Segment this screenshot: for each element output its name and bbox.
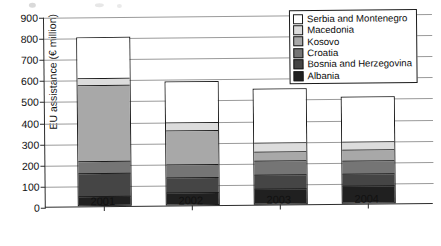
x-axis-tick-label: 2001 — [68, 195, 138, 208]
bar-segment-serbia-and-montenegro[interactable] — [254, 89, 307, 143]
y-axis-tick — [41, 208, 46, 209]
legend-swatch-icon — [293, 25, 303, 35]
bar-segment-croatia[interactable] — [342, 161, 394, 174]
bar-segment-serbia-and-montenegro[interactable] — [342, 97, 394, 143]
bar-2002[interactable] — [165, 81, 220, 206]
y-axis-title: EU assistance (€ million) — [46, 14, 59, 130]
y-axis-tick-label: 600 — [21, 75, 39, 87]
bar-segment-serbia-and-montenegro[interactable] — [166, 82, 218, 124]
legend-swatch-icon — [294, 71, 304, 81]
bar-2004[interactable] — [341, 96, 396, 204]
y-axis-tick-label: 900 — [20, 12, 38, 24]
y-axis-tick — [40, 165, 45, 166]
x-axis-tick-label: 2002 — [156, 194, 226, 207]
y-axis-tick — [40, 144, 45, 145]
y-axis-tick — [40, 123, 45, 124]
legend-label: Serbia and Montenegro — [307, 13, 407, 24]
bar-segment-croatia[interactable] — [78, 162, 130, 175]
x-axis-tick-label: 2004 — [332, 192, 402, 205]
y-axis-tick-label: 800 — [21, 33, 39, 45]
x-axis-labels: 2001200220032004 — [0, 0, 440, 2]
y-axis-tick — [39, 60, 44, 61]
legend-label: Bosnia and Herzegovina — [307, 59, 412, 70]
legend-label: Kosovo — [307, 37, 339, 47]
legend-item[interactable]: Serbia and Montenegro — [293, 12, 412, 25]
legend-label: Macedonia — [307, 25, 354, 35]
y-axis-tick — [39, 39, 44, 40]
legend-item[interactable]: Bosnia and Herzegovina — [293, 58, 412, 71]
bar-segment-croatia[interactable] — [254, 161, 306, 175]
legend-swatch-icon — [293, 14, 303, 24]
x-axis-tick-label: 2003 — [244, 193, 314, 206]
legend-swatch-icon — [293, 48, 303, 58]
y-axis-tick — [40, 102, 45, 103]
y-axis-tick-label: 500 — [21, 96, 39, 108]
bar-segment-bosnia-and-herzegovina[interactable] — [342, 174, 394, 187]
chart-legend: Serbia and MontenegroMacedoniaKosovoCroa… — [289, 9, 417, 85]
scan-artifact — [95, 3, 104, 7]
scan-artifact — [117, 4, 122, 8]
chart-figure: EU assistance (€ million) 01002003004005… — [0, 0, 441, 246]
y-axis-tick-label: 200 — [22, 160, 40, 172]
scan-artifact — [29, 3, 36, 8]
bar-2001[interactable] — [76, 37, 132, 206]
y-axis-tick-label: 700 — [21, 54, 39, 66]
bar-segment-bosnia-and-herzegovina[interactable] — [167, 178, 219, 194]
legend-swatch-icon — [293, 59, 303, 69]
y-axis-tick — [41, 187, 46, 188]
bar-segment-kosovo[interactable] — [342, 151, 394, 162]
bar-segment-kosovo[interactable] — [166, 131, 218, 165]
bar-segment-serbia-and-montenegro[interactable] — [77, 38, 129, 80]
bar-segment-croatia[interactable] — [166, 165, 218, 178]
bar-segment-bosnia-and-herzegovina[interactable] — [78, 174, 130, 197]
bar-segment-macedonia[interactable] — [254, 143, 306, 153]
y-axis-tick — [40, 81, 45, 82]
bar-segment-kosovo[interactable] — [78, 86, 131, 162]
y-axis-tick-label: 300 — [22, 138, 40, 150]
y-axis-tick-label: 400 — [21, 117, 39, 129]
legend-swatch-icon — [293, 37, 303, 47]
legend-item[interactable]: Albania — [293, 69, 412, 82]
bar-2003[interactable] — [253, 88, 308, 204]
y-axis-tick-label: 0 — [34, 202, 40, 214]
y-axis-tick — [39, 18, 44, 19]
legend-label: Croatia — [307, 48, 338, 58]
legend-label: Albania — [308, 71, 340, 81]
bar-segment-bosnia-and-herzegovina[interactable] — [255, 175, 307, 190]
y-axis-tick-label: 100 — [22, 181, 40, 193]
